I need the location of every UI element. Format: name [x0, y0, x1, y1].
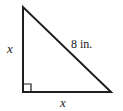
right-triangle-figure: x x 8 in. [0, 0, 123, 111]
right-angle-icon [23, 84, 31, 92]
horizontal-leg-label: x [60, 96, 66, 109]
triangle-outline [23, 7, 111, 92]
hypotenuse-label: 8 in. [71, 38, 92, 50]
vertical-leg-label: x [7, 42, 13, 55]
